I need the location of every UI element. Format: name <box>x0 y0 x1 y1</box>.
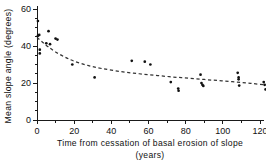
data-point <box>236 71 239 74</box>
data-point <box>143 60 146 63</box>
scatter-plot: 0204060801001200204060 Time from cessati… <box>0 0 266 163</box>
data-point <box>202 85 205 88</box>
y-tick-label: 40 <box>21 41 31 51</box>
tick-marks <box>33 9 260 124</box>
data-point <box>149 63 152 66</box>
data-point <box>38 34 41 37</box>
data-point <box>47 30 50 33</box>
x-tick-label: 40 <box>106 126 116 136</box>
x-tick-label: 100 <box>215 126 230 136</box>
data-point <box>37 20 40 23</box>
chart-figure: 0204060801001200204060 Time from cessati… <box>0 0 266 163</box>
x-tick-label: 80 <box>181 126 191 136</box>
x-tick-label: 20 <box>69 126 79 136</box>
data-point <box>49 43 52 46</box>
trend-curve-path <box>37 37 266 85</box>
data-point <box>237 78 240 81</box>
y-axis-label: Mean slope angle (degrees) <box>3 9 13 124</box>
x-axis-label: Time from cessation of basal erosion of … <box>57 138 243 148</box>
data-point <box>262 81 265 84</box>
data-point <box>199 73 202 76</box>
x-tick-label: 120 <box>252 126 266 136</box>
x-tick-label: 0 <box>34 126 39 136</box>
data-point <box>263 84 266 87</box>
data-point <box>264 88 266 91</box>
data-point <box>38 48 41 51</box>
x-tick-label: 60 <box>143 126 153 136</box>
trend-curve <box>37 37 266 85</box>
data-point <box>177 89 180 92</box>
tick-labels: 0204060801001200204060 <box>21 4 266 136</box>
data-point <box>71 63 74 66</box>
data-point <box>130 59 133 62</box>
y-tick-label: 60 <box>21 4 31 14</box>
x-axis-units-label: (years) <box>136 150 165 160</box>
data-point <box>238 84 241 87</box>
axes <box>37 6 264 120</box>
y-tick-label: 0 <box>26 115 31 125</box>
data-point <box>169 81 172 84</box>
data-point <box>38 52 41 55</box>
y-tick-label: 20 <box>21 78 31 88</box>
data-point <box>93 76 96 79</box>
data-point <box>56 38 59 41</box>
data-point <box>45 42 48 45</box>
